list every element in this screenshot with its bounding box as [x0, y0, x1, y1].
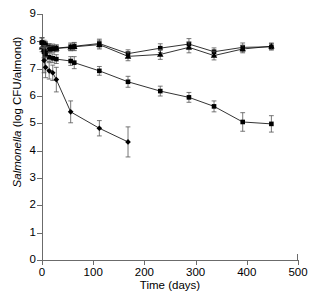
series-layer — [42, 14, 298, 261]
data-point-square — [97, 69, 102, 74]
data-point-diamond — [53, 77, 59, 83]
plot-area: 01234567890100200300400500 — [42, 14, 298, 261]
y-tick-label-4: 4 — [16, 145, 36, 156]
data-point-square — [158, 89, 163, 94]
x-axis-title: Time (days) — [42, 279, 298, 291]
series-3-squares-declining — [40, 38, 274, 132]
y-tick-label-8: 8 — [16, 35, 36, 46]
y-tick-label-0: 0 — [16, 254, 36, 265]
x-tick-label-0: 0 — [22, 266, 62, 278]
data-point-square — [72, 60, 77, 65]
y-tick-label-9: 9 — [16, 8, 36, 19]
data-point-square — [240, 120, 245, 125]
data-point-square — [212, 104, 217, 109]
x-tick-500 — [298, 260, 299, 265]
data-point-diamond — [41, 58, 47, 64]
x-tick-label-100: 100 — [73, 266, 113, 278]
data-point-square — [269, 122, 274, 127]
data-point-diamond — [68, 109, 74, 115]
y-tick-label-3: 3 — [16, 172, 36, 183]
chart-figure: Salmonella (log CFU/almond) Time (days) … — [0, 0, 313, 299]
data-point-square — [187, 95, 192, 100]
x-tick-label-300: 300 — [176, 266, 216, 278]
data-point-diamond — [97, 125, 103, 131]
x-tick-label-200: 200 — [124, 266, 164, 278]
y-tick-label-6: 6 — [16, 90, 36, 101]
data-point-square — [54, 57, 59, 62]
y-tick-label-2: 2 — [16, 199, 36, 210]
y-tick-label-7: 7 — [16, 63, 36, 74]
data-point-diamond — [125, 139, 131, 145]
x-tick-label-500: 500 — [278, 266, 313, 278]
y-tick-label-1: 1 — [16, 227, 36, 238]
x-tick-label-400: 400 — [227, 266, 267, 278]
y-tick-label-5: 5 — [16, 117, 36, 128]
data-point-square — [126, 79, 131, 84]
